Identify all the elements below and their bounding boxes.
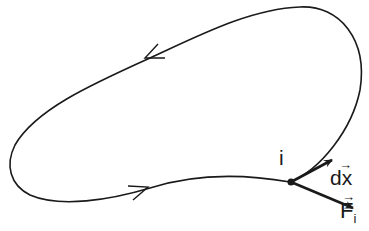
force-label: → Fi xyxy=(340,200,356,222)
vector-arrow-icon: → xyxy=(342,190,355,203)
vector-arrow-icon: → xyxy=(339,158,352,171)
force-label-subscript: i xyxy=(353,211,356,226)
point-label-i: i xyxy=(279,147,284,168)
dx-vector-arrow xyxy=(291,160,332,182)
dx-label: → dx xyxy=(330,167,352,188)
diagram-canvas xyxy=(0,0,369,231)
